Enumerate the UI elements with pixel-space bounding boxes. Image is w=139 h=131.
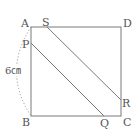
label-p: P (22, 38, 30, 51)
side-length-label: 6㎝ (5, 65, 21, 76)
label-a: A (20, 17, 30, 30)
square-abcd (31, 27, 121, 116)
label-c: C (123, 116, 131, 129)
label-b: B (22, 116, 30, 129)
segment-pq (31, 43, 104, 116)
geometry-diagram: A S D P R B Q C 6㎝ (0, 0, 139, 131)
label-s: S (42, 16, 50, 29)
segment-sr (47, 27, 121, 100)
label-q: Q (100, 117, 109, 130)
label-r: R (122, 97, 131, 110)
label-d: D (123, 17, 132, 30)
